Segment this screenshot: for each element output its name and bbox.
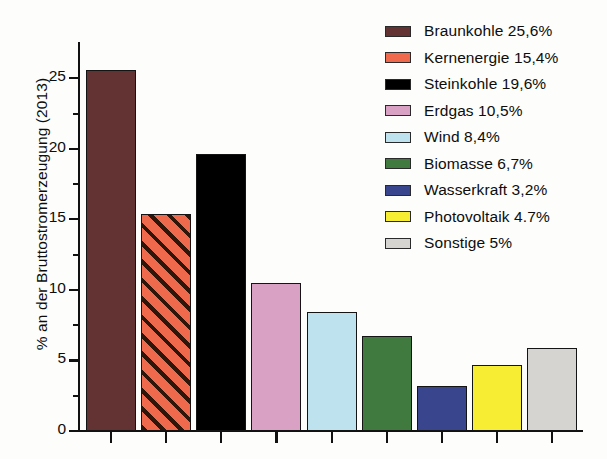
bar-sonstige xyxy=(527,348,577,431)
legend-swatch-icon xyxy=(385,185,411,196)
y-tick-mark xyxy=(69,148,78,150)
bar-biomasse xyxy=(362,336,412,431)
y-axis-line xyxy=(78,42,80,431)
bar-erdgas xyxy=(251,283,301,431)
bar-wasserkraft xyxy=(417,386,467,431)
legend-label: Photovoltaik 4.7% xyxy=(424,208,550,226)
legend-label: Kernenergie 15,4% xyxy=(424,49,558,67)
x-tick-mark xyxy=(110,432,112,443)
legend-label: Wasserkraft 3,2% xyxy=(424,181,547,199)
y-tick-label: 5 xyxy=(57,349,66,367)
legend-item: Photovoltaik 4.7% xyxy=(385,204,607,231)
legend-item: Biomasse 6,7% xyxy=(385,151,607,178)
x-tick-mark xyxy=(551,432,553,443)
bar-braunkohle xyxy=(86,70,136,431)
bar-steinkohle xyxy=(196,154,246,431)
legend-item: Wind 8,4% xyxy=(385,124,607,151)
legend-label: Braunkohle 25,6% xyxy=(424,22,552,40)
y-tick-minor xyxy=(73,324,79,326)
legend-label: Steinkohle 19,6% xyxy=(424,75,546,93)
legend-item: Braunkohle 25,6% xyxy=(385,18,607,45)
x-tick-mark xyxy=(496,432,498,443)
x-tick-mark xyxy=(386,432,388,443)
y-tick-label: 20 xyxy=(49,138,66,156)
y-tick-mark xyxy=(69,430,78,432)
y-tick-minor xyxy=(73,254,79,256)
legend-swatch-icon xyxy=(385,238,411,249)
y-tick-mark xyxy=(69,77,78,79)
legend-item: Sonstige 5% xyxy=(385,230,607,257)
y-tick-label: 10 xyxy=(49,279,66,297)
x-tick-mark xyxy=(275,432,277,443)
legend-item: Steinkohle 19,6% xyxy=(385,71,607,98)
y-tick-label: 15 xyxy=(49,208,66,226)
legend-label: Erdgas 10,5% xyxy=(424,102,523,120)
legend-swatch-icon xyxy=(385,211,411,222)
chart-legend: Braunkohle 25,6%Kernenergie 15,4%Steinko… xyxy=(385,18,607,257)
bar-wind xyxy=(307,312,357,431)
legend-label: Sonstige 5% xyxy=(424,234,512,252)
x-tick-mark xyxy=(220,432,222,443)
legend-item: Wasserkraft 3,2% xyxy=(385,177,607,204)
y-tick-mark xyxy=(69,289,78,291)
y-tick-minor xyxy=(73,183,79,185)
bar-chart-figure: % an der Bruttostromerzeugung (2013) 051… xyxy=(0,0,607,459)
legend-item: Kernenergie 15,4% xyxy=(385,45,607,72)
y-tick-mark xyxy=(69,359,78,361)
y-tick-mark xyxy=(69,218,78,220)
legend-label: Wind 8,4% xyxy=(424,128,500,146)
bar-photovoltaik xyxy=(472,365,522,431)
y-tick-minor xyxy=(73,395,79,397)
y-tick-minor xyxy=(73,113,79,115)
bar-kernenergie xyxy=(141,214,191,431)
x-tick-mark xyxy=(441,432,443,443)
legend-swatch-icon xyxy=(385,132,411,143)
y-tick-label: 25 xyxy=(49,67,66,85)
legend-swatch-icon xyxy=(385,52,411,63)
legend-label: Biomasse 6,7% xyxy=(424,155,533,173)
legend-swatch-icon xyxy=(385,105,411,116)
legend-swatch-icon xyxy=(385,26,411,37)
x-tick-mark xyxy=(331,432,333,443)
legend-swatch-icon xyxy=(385,158,411,169)
y-tick-label: 0 xyxy=(57,420,66,438)
legend-swatch-icon xyxy=(385,79,411,90)
x-tick-mark xyxy=(165,432,167,443)
legend-item: Erdgas 10,5% xyxy=(385,98,607,125)
